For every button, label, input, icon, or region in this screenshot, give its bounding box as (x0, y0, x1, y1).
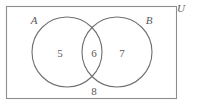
region-count-a-and-b: 6 (91, 47, 97, 59)
region-count-outside: 8 (91, 85, 97, 97)
region-count-a-only: 5 (57, 47, 63, 59)
set-label-b: B (146, 14, 153, 26)
universe-label: U (177, 2, 186, 14)
set-label-a: A (30, 14, 38, 26)
venn-diagram-figure: U A B 5 6 7 8 (0, 0, 197, 108)
region-count-b-only: 7 (119, 47, 125, 59)
venn-diagram-canvas: U A B 5 6 7 8 (0, 0, 197, 108)
